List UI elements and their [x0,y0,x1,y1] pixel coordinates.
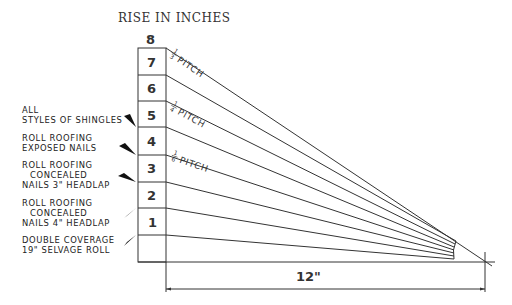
svg-text:EXPOSED NAILS: EXPOSED NAILS [22,143,97,153]
arrow-icon [124,208,136,218]
pitch-label-one-fourth: 1 4 PITCH [168,99,209,130]
roofing-type-double-coverage: DOUBLE COVERAGE 19" SELVAGE ROLL [22,235,115,255]
svg-text:PITCH: PITCH [175,54,206,79]
rise-label-6: 6 [147,81,156,96]
arrow-icon [124,235,136,246]
rise-label-2: 2 [147,188,156,203]
svg-text:NAILS 3" HEADLAP: NAILS 3" HEADLAP [22,180,110,190]
svg-text:ROLL ROOFING: ROLL ROOFING [22,160,93,170]
svg-text:CONCEALED: CONCEALED [30,208,87,218]
svg-text:PITCH: PITCH [178,155,210,174]
svg-text:19" SELVAGE ROLL: 19" SELVAGE ROLL [22,245,110,255]
diagram-title: RISE IN INCHES [118,11,231,25]
roofing-type-concealed-3in: ROLL ROOFING CONCEALED NAILS 3" HEADLAP [22,160,110,190]
svg-text:ROLL ROOFING: ROLL ROOFING [22,133,93,143]
arrow-icon [118,173,136,182]
rise-label-4: 4 [147,134,156,149]
pitch-lines [138,48,495,266]
roofing-type-shingles: ALL STYLES OF SHINGLES [22,105,122,125]
pitch-label-one-third: 1 3 PITCH [168,46,208,79]
svg-text:NAILS 4" HEADLAP: NAILS 4" HEADLAP [22,218,110,228]
roofing-type-exposed-nails: ROLL ROOFING EXPOSED NAILS [22,133,97,153]
svg-text:4: 4 [169,105,176,113]
roofing-type-concealed-4in: ROLL ROOFING CONCEALED NAILS 4" HEADLAP [22,198,110,228]
svg-text:6: 6 [171,155,177,163]
svg-text:STYLES OF SHINGLES: STYLES OF SHINGLES [22,115,122,125]
svg-text:PITCH: PITCH [176,107,207,130]
rise-label-3: 3 [147,161,156,176]
rise-label-5: 5 [147,108,156,123]
arrow-icon [119,143,136,155]
svg-text:CONCEALED: CONCEALED [30,170,87,180]
roof-pitch-diagram: RISE IN INCHES 8 7 6 5 4 3 2 1 1 3 PITCH [0,0,512,305]
pointer-arrows [118,114,136,246]
rise-label-7: 7 [147,55,156,70]
svg-text:DOUBLE COVERAGE: DOUBLE COVERAGE [22,235,115,245]
svg-text:3: 3 [169,53,176,61]
rise-label-1: 1 [148,215,157,230]
pitch-label-one-sixth: 1 6 PITCH [170,148,212,174]
svg-text:ROLL ROOFING: ROLL ROOFING [22,198,93,208]
svg-text:ALL: ALL [22,105,39,115]
rise-label-8: 8 [146,32,155,47]
arrow-icon [124,114,136,127]
run-dimension-label: 12" [296,269,321,284]
